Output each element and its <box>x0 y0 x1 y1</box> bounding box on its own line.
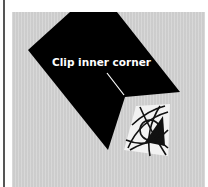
patterned-fabric-patch <box>124 104 170 156</box>
fabric-illustration <box>0 0 208 187</box>
callout-label: Clip inner corner <box>52 56 151 68</box>
